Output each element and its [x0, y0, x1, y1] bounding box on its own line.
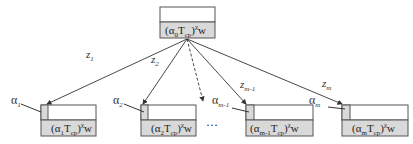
ellipsis: ···	[206, 118, 218, 133]
alpha-label-m-1: αm-1	[212, 93, 229, 109]
child-label-2: (α2Tcp)χw	[151, 121, 192, 137]
alpha-label-m: αm	[309, 93, 320, 109]
edge-label-zm1: zm-1	[240, 78, 255, 93]
child-label-1: (α1Tcp)χw	[51, 121, 92, 137]
edge-label-z2: z2	[151, 53, 159, 68]
child-label-m: (αmTcp)χw	[352, 121, 395, 137]
edge-label-z1: z1	[86, 48, 94, 63]
child-label-m-1: (αm-1Tcp)χw	[250, 121, 299, 137]
alpha-label-2: α2	[113, 93, 123, 109]
root-label: (α0Tcp)χw	[165, 23, 206, 39]
alpha-label-1: α1	[11, 93, 21, 109]
edge-label-zm: zm	[322, 77, 331, 92]
